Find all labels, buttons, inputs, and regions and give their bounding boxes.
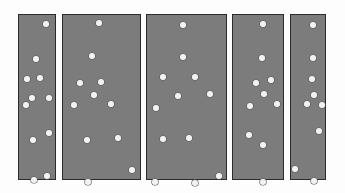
dot-marker — [30, 137, 35, 142]
dot-marker — [160, 136, 165, 141]
dot-marker — [216, 173, 221, 178]
dot-panel-4 — [232, 14, 284, 180]
dot-marker — [29, 95, 34, 100]
dot-marker — [274, 101, 279, 106]
dot-marker — [304, 101, 309, 106]
dot-marker — [316, 128, 321, 133]
dot-marker — [261, 91, 266, 96]
dot-marker — [260, 21, 265, 26]
dot-marker — [84, 137, 89, 142]
dot-panel-5 — [290, 14, 326, 180]
dot-marker — [115, 135, 120, 140]
dot-marker — [71, 102, 76, 107]
dot-marker — [37, 75, 42, 80]
dot-marker — [192, 74, 197, 79]
dot-marker — [319, 102, 324, 107]
dot-marker — [311, 178, 316, 183]
dot-marker — [247, 103, 252, 108]
dot-marker — [253, 80, 258, 85]
dot-marker — [91, 92, 96, 97]
dot-marker — [77, 80, 82, 85]
dot-marker — [33, 56, 38, 61]
dot-marker — [311, 92, 316, 97]
dot-marker — [175, 93, 180, 98]
dot-marker — [268, 77, 273, 82]
dot-marker — [23, 102, 28, 107]
dot-marker — [310, 55, 315, 60]
dot-marker — [31, 177, 36, 182]
dot-marker — [246, 132, 251, 137]
dot-marker — [260, 142, 265, 147]
dot-marker — [180, 54, 185, 59]
dot-marker — [180, 22, 185, 27]
dot-marker — [89, 53, 94, 58]
dot-marker — [153, 105, 158, 110]
dot-marker — [192, 180, 197, 185]
dot-marker — [309, 76, 314, 81]
dot-marker — [259, 55, 264, 60]
dot-panel-3 — [146, 14, 227, 180]
dot-marker — [260, 179, 265, 184]
dot-marker — [160, 74, 165, 79]
dot-marker — [152, 179, 157, 184]
dot-marker — [207, 91, 212, 96]
dot-marker — [310, 22, 315, 27]
dot-marker — [98, 79, 103, 84]
dot-marker — [186, 135, 191, 140]
dot-marker — [43, 21, 48, 26]
dot-marker — [46, 95, 51, 100]
dot-panel-1 — [18, 14, 56, 180]
dot-marker — [44, 173, 49, 178]
dot-marker — [85, 179, 90, 184]
dot-marker — [292, 166, 297, 171]
dot-marker — [24, 76, 29, 81]
dot-marker — [46, 130, 51, 135]
dot-marker — [129, 167, 134, 172]
dot-marker — [108, 101, 113, 106]
dot-marker — [96, 20, 101, 25]
figure-canvas — [0, 0, 345, 193]
dot-panel-2 — [62, 14, 141, 180]
